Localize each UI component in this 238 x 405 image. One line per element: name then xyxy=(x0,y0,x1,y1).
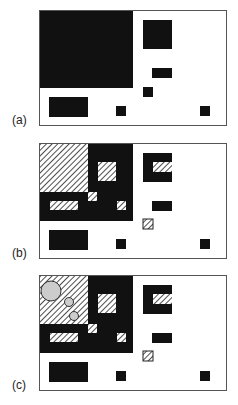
panel-label: (c) xyxy=(12,378,26,392)
hatched-region xyxy=(153,294,172,304)
panel-label: (a) xyxy=(12,113,27,127)
hatched-region xyxy=(117,333,126,342)
filled-region xyxy=(152,201,172,211)
filled-region xyxy=(116,106,126,116)
filled-region xyxy=(143,87,153,97)
filled-region xyxy=(49,230,88,250)
filled-region xyxy=(49,362,88,382)
filled-region xyxy=(143,20,172,49)
hatched-region xyxy=(50,333,78,342)
filled-region xyxy=(152,68,172,78)
panel-a xyxy=(39,10,227,126)
filled-region xyxy=(116,239,126,249)
hatched-region xyxy=(153,162,172,172)
circle-region xyxy=(41,281,61,301)
hatched-region xyxy=(143,351,153,361)
circle-region xyxy=(70,312,79,321)
hatched-region xyxy=(88,192,97,201)
panel-b xyxy=(39,143,227,259)
panel-label: (b) xyxy=(12,246,27,260)
filled-region xyxy=(200,371,210,381)
hatched-region xyxy=(98,294,116,313)
hatched-region xyxy=(98,162,116,181)
filled-region xyxy=(200,239,210,249)
hatched-region xyxy=(117,201,126,210)
hatched-region xyxy=(50,201,78,210)
filled-region xyxy=(200,106,210,116)
filled-region xyxy=(152,333,172,343)
filled-region xyxy=(116,371,126,381)
filled-region xyxy=(40,11,133,88)
filled-region xyxy=(49,97,88,117)
hatched-region xyxy=(143,219,153,229)
hatched-region xyxy=(40,144,88,192)
hatched-region xyxy=(88,324,97,333)
circle-region xyxy=(65,298,74,307)
panel-c xyxy=(39,275,227,391)
